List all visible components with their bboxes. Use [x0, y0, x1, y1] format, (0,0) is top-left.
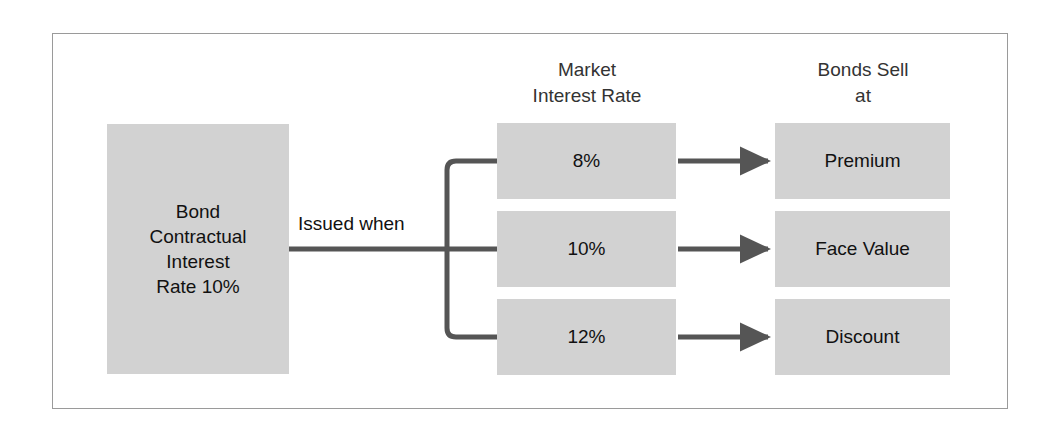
market-rate-box-row-2: 10% — [497, 211, 676, 287]
header-market-line-2: Interest Rate — [487, 83, 687, 109]
column-header-bonds-sell-at: Bonds Sell at — [765, 57, 961, 108]
source-box-line-3: Interest — [149, 249, 246, 274]
market-rate-value-row-2: 10% — [567, 236, 605, 261]
connector-label-issued-when: Issued when — [298, 213, 405, 235]
bonds-sell-value-row-3: Discount — [826, 324, 900, 349]
bonds-sell-box-row-2: Face Value — [775, 211, 950, 287]
bonds-sell-box-row-3: Discount — [775, 299, 950, 375]
market-rate-box-row-1: 8% — [497, 123, 676, 199]
header-market-line-1: Market — [487, 57, 687, 83]
source-box-line-4: Rate 10% — [149, 274, 246, 299]
market-rate-value-row-1: 8% — [573, 148, 600, 173]
source-box-line-1: Bond — [149, 199, 246, 224]
header-bonds-line-1: Bonds Sell — [765, 57, 961, 83]
bonds-sell-box-row-1: Premium — [775, 123, 950, 199]
source-box-line-2: Contractual — [149, 224, 246, 249]
market-rate-value-row-3: 12% — [567, 324, 605, 349]
bonds-sell-value-row-1: Premium — [824, 148, 900, 173]
diagram-canvas: Market Interest Rate Bonds Sell at Bond … — [0, 0, 1058, 437]
column-header-market-interest-rate: Market Interest Rate — [487, 57, 687, 108]
source-box-text: Bond Contractual Interest Rate 10% — [149, 199, 246, 299]
header-bonds-line-2: at — [765, 83, 961, 109]
market-rate-box-row-3: 12% — [497, 299, 676, 375]
source-box-bond-contractual-rate: Bond Contractual Interest Rate 10% — [107, 124, 289, 374]
bonds-sell-value-row-2: Face Value — [815, 236, 910, 261]
